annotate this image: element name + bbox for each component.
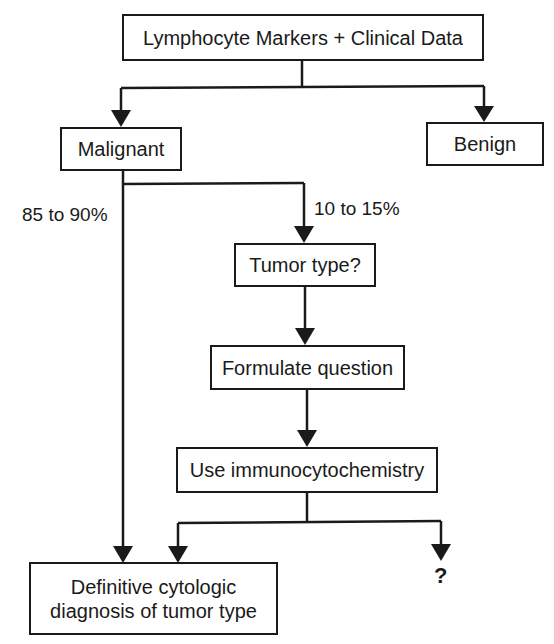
node-lymphocyte-markers-clinical-data: Lymphocyte Markers + Clinical Data <box>122 14 484 61</box>
node-benign: Benign <box>426 122 544 166</box>
node-label: Lymphocyte Markers + Clinical Data <box>143 26 463 50</box>
arrowheads <box>111 106 494 563</box>
node-label: Benign <box>454 132 516 156</box>
node-label: Malignant <box>78 137 165 161</box>
node-use-immunocytochemistry: Use immunocytochemistry <box>176 447 438 493</box>
flowchart-canvas: Lymphocyte Markers + Clinical Data Malig… <box>0 0 554 644</box>
node-label-line2: diagnosis of tumor type <box>50 599 257 623</box>
node-definitive-cytologic-diagnosis: Definitive cytologic diagnosis of tumor … <box>29 562 278 635</box>
node-malignant: Malignant <box>60 127 182 171</box>
connector-lines <box>0 0 554 644</box>
node-label-line1: Definitive cytologic <box>71 575 237 599</box>
node-label: Tumor type? <box>249 253 361 277</box>
node-label: Use immunocytochemistry <box>190 458 425 482</box>
node-label: Formulate question <box>222 356 393 380</box>
node-formulate-question: Formulate question <box>210 345 405 390</box>
node-unknown-outcome: ? <box>434 563 447 589</box>
node-tumor-type: Tumor type? <box>234 243 376 287</box>
edge-label-85-to-90: 85 to 90% <box>22 204 108 226</box>
edge-label-10-to-15: 10 to 15% <box>314 198 400 220</box>
